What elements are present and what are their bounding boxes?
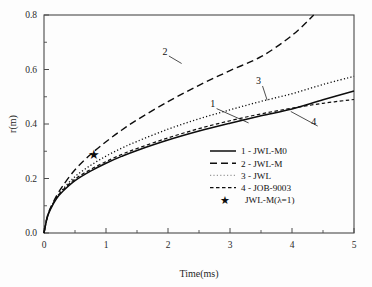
legend-label-3: 3 - JWL (241, 171, 271, 181)
y-tick-label: 0.2 (25, 174, 37, 184)
data-series-group (44, 15, 354, 233)
star-marker: ★ (88, 147, 100, 162)
chart-figure: 0123450.00.20.40.60.8 1234 ★ 1 - JWL-M02… (0, 0, 372, 287)
axes: 0123450.00.20.40.60.8 (25, 10, 357, 250)
y-tick-label: 0.6 (25, 65, 37, 75)
data-markers: ★ (88, 147, 100, 162)
chart-legend: 1 - JWL-M02 - JWL-M3 - JWL4 - JOB-9003★J… (210, 146, 294, 206)
y-axis-title: r(m) (7, 115, 19, 133)
x-tick-label: 0 (42, 240, 47, 250)
plot-frame (44, 15, 354, 233)
curve-label-4: 4 (311, 116, 316, 127)
chart-plot-area: 0123450.00.20.40.60.8 1234 ★ 1 - JWL-M02… (0, 0, 372, 287)
x-tick-label: 3 (228, 240, 233, 250)
y-tick-label: 0.0 (25, 228, 37, 238)
curve-label-1: 1 (210, 98, 215, 109)
legend-label-1: 1 - JWL-M0 (241, 146, 287, 156)
legend-label-2: 2 - JWL-M (241, 159, 282, 169)
legend-swatch-star: ★ (220, 194, 230, 206)
x-tick-label: 2 (166, 240, 171, 250)
y-tick-label: 0.8 (25, 10, 37, 20)
curve-label-3: 3 (256, 75, 261, 86)
x-tick-label: 5 (352, 240, 357, 250)
x-tick-label: 4 (290, 240, 295, 250)
annotation-leader-3 (263, 86, 268, 100)
x-axis-title: Time(ms) (179, 268, 218, 280)
series-curve-4 (44, 99, 354, 233)
curve-label-2: 2 (162, 46, 167, 57)
annotation-leader-1 (217, 109, 249, 123)
y-tick-label: 0.4 (25, 119, 37, 129)
x-tick-label: 1 (104, 240, 109, 250)
axis-titles: Time(ms)r(m) (7, 115, 219, 280)
legend-label-4: 4 - JOB-9003 (241, 183, 291, 193)
legend-label-star: JWL-M(λ=1) (245, 195, 294, 205)
curve-annotations: 1234 (162, 46, 317, 127)
annotation-leader-2 (169, 56, 182, 63)
